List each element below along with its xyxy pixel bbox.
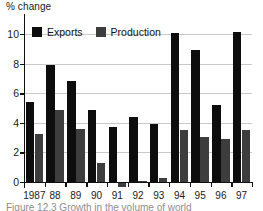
x-axis-line — [24, 182, 252, 183]
bar-production-1987 — [35, 134, 43, 182]
x-axis-tick-label: 95 — [195, 190, 206, 201]
bar-production-88 — [55, 110, 63, 182]
x-axis-tick — [65, 182, 66, 187]
y-axis-tick-label: 6 — [13, 87, 19, 99]
y-axis-title: % change — [6, 1, 51, 12]
x-axis-tick — [211, 182, 212, 187]
bar-exports-93 — [150, 124, 158, 182]
legend-item-exports: Exports — [32, 26, 83, 38]
x-axis-tick — [231, 182, 232, 187]
y-axis-tick — [20, 93, 24, 94]
figure-container: % change 0246810 19878889909192939495969… — [0, 0, 263, 211]
x-axis-tick-label: 91 — [112, 190, 123, 201]
legend-label-exports: Exports — [47, 26, 83, 38]
x-axis-tick-label: 96 — [215, 190, 226, 201]
bar-production-89 — [76, 129, 84, 182]
bar-production-97 — [242, 130, 250, 182]
x-axis-tick — [148, 182, 149, 187]
gridline — [24, 93, 252, 94]
bar-exports-97 — [233, 32, 241, 182]
x-axis-tick-label: 88 — [50, 190, 61, 201]
legend-swatch-production-icon — [96, 27, 106, 37]
bar-exports-89 — [67, 81, 75, 182]
x-axis-tick — [107, 182, 108, 187]
x-axis-tick-label: 93 — [153, 190, 164, 201]
y-axis-tick — [20, 152, 24, 153]
legend-swatch-exports-icon — [32, 27, 42, 37]
x-axis-tick-label: 1987 — [23, 190, 45, 201]
bar-exports-96 — [212, 105, 220, 182]
y-axis-tick-label: 10 — [7, 28, 19, 40]
bar-production-94 — [180, 130, 188, 182]
legend-label-production: Production — [111, 26, 161, 38]
y-axis-tick-label: 2 — [13, 146, 19, 158]
x-axis-tick — [169, 182, 170, 187]
x-axis-tick-label: 90 — [91, 190, 102, 201]
y-axis-tick-label: 0 — [13, 176, 19, 188]
x-axis-tick-label: 97 — [236, 190, 247, 201]
bar-exports-92 — [129, 117, 137, 182]
x-axis-tick-label: 92 — [132, 190, 143, 201]
bar-exports-95 — [191, 50, 199, 182]
y-axis-tick-label: 4 — [13, 117, 19, 129]
figure-caption: Figure 12.3 Growth in the volume of worl… — [6, 202, 263, 211]
x-axis-tick-label: 94 — [174, 190, 185, 201]
bar-production-96 — [221, 139, 229, 182]
x-axis-tick — [86, 182, 87, 187]
bar-exports-90 — [88, 110, 96, 182]
y-axis-tick — [20, 123, 24, 124]
gridline — [24, 64, 252, 65]
y-axis-tick — [20, 34, 24, 35]
x-axis-tick — [128, 182, 129, 187]
chart-legend: Exports Production — [32, 26, 161, 38]
plot-area: 0246810 198788899091929394959697 — [24, 14, 252, 188]
bar-exports-91 — [109, 127, 117, 183]
bar-exports-88 — [46, 65, 54, 182]
x-axis-tick — [24, 182, 25, 187]
bar-exports-1987 — [26, 102, 34, 182]
bar-production-95 — [200, 137, 208, 182]
x-axis-tick — [190, 182, 191, 187]
bar-production-90 — [97, 163, 105, 182]
y-axis-line — [24, 14, 25, 188]
x-axis-tick — [45, 182, 46, 187]
y-axis-tick-label: 8 — [13, 58, 19, 70]
legend-item-production: Production — [96, 26, 161, 38]
bar-exports-94 — [171, 33, 179, 182]
x-axis-tick — [252, 182, 253, 187]
y-axis-tick — [20, 64, 24, 65]
x-axis-tick-label: 89 — [70, 190, 81, 201]
